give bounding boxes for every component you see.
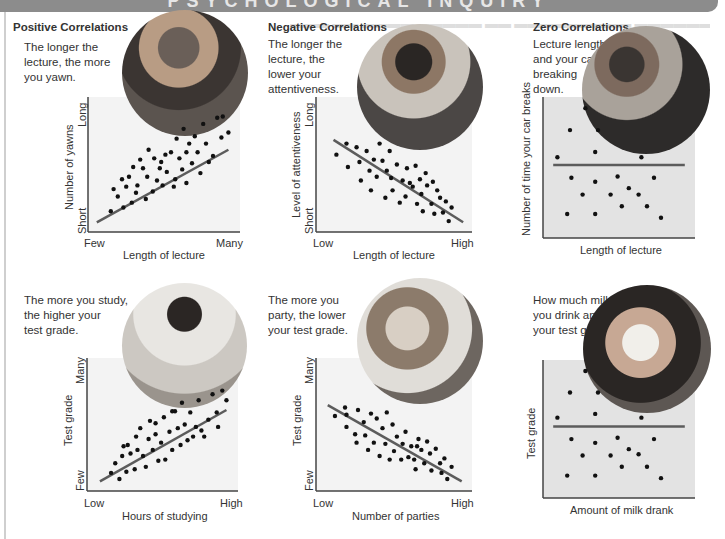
data-point <box>593 473 597 477</box>
data-point <box>363 433 367 437</box>
data-point <box>399 457 403 461</box>
data-point <box>593 179 597 183</box>
data-point <box>565 473 569 477</box>
data-point <box>144 465 148 469</box>
data-point <box>422 461 426 465</box>
data-point <box>216 425 220 429</box>
data-point <box>116 194 120 198</box>
ytick-low-negative-top: Short <box>303 208 315 234</box>
data-point <box>202 434 206 438</box>
data-point <box>392 449 396 453</box>
data-point <box>134 434 138 438</box>
scatter-negative-top <box>316 97 472 232</box>
trend-line <box>334 140 464 222</box>
data-point <box>400 442 404 446</box>
data-point <box>163 152 167 156</box>
caption-line: The longer the <box>268 37 342 52</box>
data-point <box>395 434 399 438</box>
data-point <box>159 160 163 164</box>
ytick-high-positive-top: Long <box>76 103 88 127</box>
data-point <box>126 443 130 447</box>
data-point <box>135 448 139 452</box>
ytick-low-positive-bottom: Few <box>74 470 86 491</box>
xtick-low-negative-top: Low <box>313 237 333 249</box>
data-point <box>346 165 350 169</box>
data-point <box>184 181 188 185</box>
data-point <box>555 415 559 419</box>
data-point <box>170 448 174 452</box>
ytick-high-positive-bottom: Many <box>74 357 86 384</box>
data-point <box>151 448 155 452</box>
xtick-high-negative-top: High <box>451 237 474 249</box>
data-point <box>163 457 167 461</box>
scatter-positive-bottom <box>87 358 238 491</box>
data-point <box>445 477 449 481</box>
data-point <box>419 192 423 196</box>
data-point <box>184 150 188 154</box>
data-point <box>627 186 631 190</box>
data-point <box>449 465 453 469</box>
data-point <box>568 128 572 132</box>
data-point <box>130 200 134 204</box>
data-point <box>425 439 429 443</box>
data-point <box>442 456 446 460</box>
scatter-positive-top <box>88 97 240 232</box>
data-point <box>435 188 439 192</box>
data-point <box>120 454 124 458</box>
data-point <box>178 443 182 447</box>
data-point <box>113 461 117 465</box>
data-point <box>153 421 157 425</box>
data-point <box>183 422 187 426</box>
left-margin-rule <box>4 12 6 539</box>
ytick-low-negative-bottom: Few <box>303 470 315 491</box>
data-point <box>380 426 384 430</box>
data-point <box>170 409 174 413</box>
data-point <box>390 188 394 192</box>
data-point <box>344 141 348 145</box>
data-point <box>429 202 433 206</box>
data-point <box>359 178 363 182</box>
data-point <box>173 177 177 181</box>
data-point <box>615 174 619 178</box>
data-point <box>353 432 357 436</box>
xlabel-positive-top: Length of lecture <box>123 249 205 261</box>
data-point <box>165 170 169 174</box>
data-point <box>416 437 420 441</box>
data-point <box>138 426 142 430</box>
data-point <box>128 451 132 455</box>
data-point <box>659 216 663 220</box>
data-point <box>596 390 600 394</box>
data-point <box>362 420 366 424</box>
data-point <box>215 410 219 414</box>
trend-line <box>328 405 462 481</box>
xtick-low-positive-top: Few <box>84 237 105 249</box>
data-point <box>395 162 399 166</box>
caption-negative-bottom: The more you party, the lower your test … <box>268 293 348 338</box>
data-point <box>411 184 415 188</box>
data-point <box>375 416 379 420</box>
data-point <box>191 434 195 438</box>
data-point <box>620 465 624 469</box>
data-point <box>372 440 376 444</box>
caption-line: party, the lower <box>268 308 348 323</box>
data-point <box>415 444 419 448</box>
ylabel-zero-top: Number of time your car breaks <box>520 82 532 236</box>
data-point <box>406 455 410 459</box>
data-point <box>608 453 612 457</box>
data-point <box>219 135 223 139</box>
caption-line: your test grade. <box>268 323 348 338</box>
data-point <box>145 175 149 179</box>
data-point <box>580 453 584 457</box>
data-point <box>652 176 656 180</box>
data-point <box>403 194 407 198</box>
caption-line: lecture, the more <box>24 55 110 70</box>
caption-negative-top: The longer the lecture, the lower your a… <box>268 37 342 97</box>
xlabel-negative-bottom: Number of parties <box>352 510 439 522</box>
data-point <box>565 212 569 216</box>
data-point <box>408 181 412 185</box>
data-point <box>438 461 442 465</box>
data-point <box>343 405 347 409</box>
data-point <box>194 425 198 429</box>
data-point <box>439 471 443 475</box>
data-point <box>201 122 205 126</box>
